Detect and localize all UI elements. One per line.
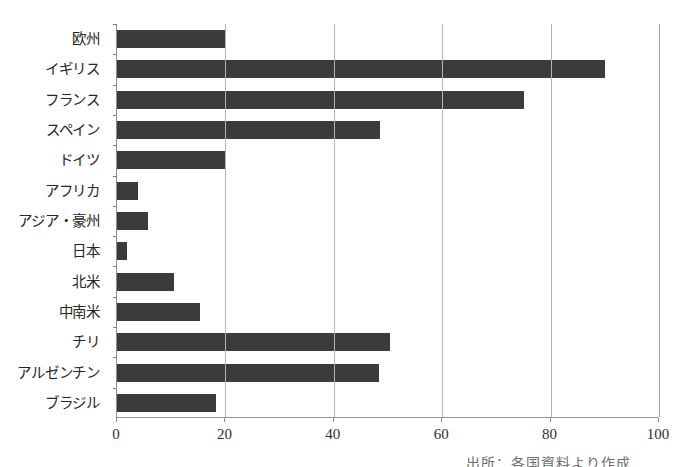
gridline-80: [551, 24, 552, 417]
category-tick: [113, 24, 117, 25]
category-label: ブラジル: [0, 395, 100, 411]
bar: [117, 242, 127, 260]
bar-row: [117, 24, 658, 54]
bar: [117, 303, 200, 321]
bar: [117, 394, 216, 412]
bar-row: [117, 297, 658, 327]
bar: [117, 151, 225, 169]
bar-row: [117, 85, 658, 115]
value-tick-label-100: 100: [628, 424, 685, 444]
category-label: 北米: [0, 274, 100, 290]
value-tick-100: [658, 418, 659, 422]
bar: [117, 364, 379, 382]
value-tick-20: [224, 418, 225, 422]
plot-area: [116, 24, 658, 418]
category-label: 中南米: [0, 304, 100, 320]
footnote-caption-text: 出所：各国資料より作成: [466, 455, 685, 467]
category-tick: [113, 206, 117, 207]
gridline-100: [659, 24, 660, 417]
value-tick-label-40: 40: [303, 424, 363, 444]
bar: [117, 60, 605, 78]
category-tick: [113, 266, 117, 267]
category-tick: [113, 115, 117, 116]
bar-chart: 欧州イギリスフランススペインドイツアフリカアジア・豪州日本北米中南米チリアルゼン…: [0, 0, 685, 467]
category-tick: [113, 176, 117, 177]
bar: [117, 182, 138, 200]
value-tick-0: [116, 418, 117, 422]
bar-row: [117, 145, 658, 175]
category-tick: [113, 388, 117, 389]
category-label: フランス: [0, 92, 100, 108]
category-tick: [113, 236, 117, 237]
bar-row: [117, 176, 658, 206]
bar: [117, 212, 148, 230]
footnote-caption: 出所：各国資料より作成: [466, 455, 685, 467]
category-label: アフリカ: [0, 183, 100, 199]
axis-baseline-dots: [117, 417, 658, 418]
value-tick-label-20: 20: [194, 424, 254, 444]
category-tick: [113, 327, 117, 328]
gridline-20: [225, 24, 226, 417]
value-tick-label-60: 60: [411, 424, 471, 444]
value-tick-label-0: 0: [86, 424, 146, 444]
bar-row: [117, 266, 658, 296]
category-label: 欧州: [0, 31, 100, 47]
value-tick-40: [333, 418, 334, 422]
bar: [117, 121, 380, 139]
category-tick: [113, 357, 117, 358]
bar: [117, 273, 174, 291]
category-tick: [113, 54, 117, 55]
bar: [117, 30, 225, 48]
bar-row: [117, 327, 658, 357]
category-tick: [113, 85, 117, 86]
value-axis-labels: 020406080100: [0, 424, 685, 448]
category-label: ドイツ: [0, 152, 100, 168]
bar-row: [117, 357, 658, 387]
category-axis-labels: 欧州イギリスフランススペインドイツアフリカアジア・豪州日本北米中南米チリアルゼン…: [0, 24, 108, 418]
value-tick-60: [441, 418, 442, 422]
bar-rows: [117, 24, 658, 417]
category-label: 日本: [0, 243, 100, 259]
bar-row: [117, 388, 658, 418]
gridline-40: [334, 24, 335, 417]
value-tick-label-80: 80: [520, 424, 580, 444]
bar-row: [117, 54, 658, 84]
gridline-60: [442, 24, 443, 417]
bar-row: [117, 206, 658, 236]
category-label: アルゼンチン: [0, 365, 100, 381]
category-label: イギリス: [0, 61, 100, 77]
category-tick: [113, 145, 117, 146]
bar: [117, 91, 524, 109]
bar-row: [117, 115, 658, 145]
category-label: アジア・豪州: [0, 213, 100, 229]
bar-row: [117, 236, 658, 266]
category-tick: [113, 297, 117, 298]
bar: [117, 333, 390, 351]
value-tick-80: [550, 418, 551, 422]
category-label: スペイン: [0, 122, 100, 138]
category-label: チリ: [0, 334, 100, 350]
